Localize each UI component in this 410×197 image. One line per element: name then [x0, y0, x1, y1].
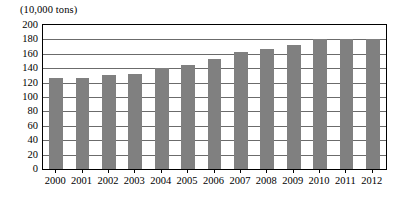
x-axis-tick [55, 170, 56, 173]
y-axis-tick-label: 60 [28, 119, 39, 130]
x-axis-tick-label: 2012 [361, 175, 382, 187]
y-axis-tick-label: 160 [22, 47, 38, 58]
x-axis-tick [240, 170, 241, 173]
bar-2012 [366, 39, 380, 169]
bar-chart-figure: (10,000 tons) 02040608010012014016018020… [0, 0, 410, 197]
y-axis-tick-label: 40 [28, 134, 39, 145]
x-axis-tick [108, 170, 109, 173]
x-axis-tick-label: 2008 [256, 175, 277, 187]
y-axis-tick-label: 120 [22, 76, 38, 87]
y-axis-tick-label: 80 [28, 105, 39, 116]
x-axis-tick-label: 2001 [71, 175, 92, 187]
bars-layer [43, 25, 386, 169]
bar-2005 [181, 65, 195, 169]
bar-2004 [155, 68, 169, 169]
y-axis-tick-label: 100 [22, 91, 38, 102]
y-axis-tick-label: 0 [33, 163, 38, 174]
x-axis-tick-label: 2002 [97, 175, 118, 187]
x-axis-tick [345, 170, 346, 173]
x-axis-tick [319, 170, 320, 173]
plot-area [42, 24, 387, 170]
bar-2006 [208, 59, 222, 169]
y-axis-tick-label: 20 [28, 148, 39, 159]
x-axis-tick-label: 2004 [150, 175, 171, 187]
bar-2003 [128, 74, 142, 169]
x-axis-tick-label: 2010 [309, 175, 330, 187]
bar-2000 [49, 78, 63, 169]
x-axis-tick-label: 2006 [203, 175, 224, 187]
x-axis-tick [293, 170, 294, 173]
bar-2009 [287, 45, 301, 169]
x-axis-tick-label: 2000 [45, 175, 66, 187]
x-axis: 2000200120022003200420052006200720082009… [42, 170, 387, 194]
bar-2010 [313, 39, 327, 169]
bar-2002 [102, 75, 116, 169]
x-axis-tick [134, 170, 135, 173]
bar-2001 [76, 78, 90, 169]
x-axis-tick-label: 2011 [335, 175, 356, 187]
x-axis-tick [214, 170, 215, 173]
x-axis-tick [82, 170, 83, 173]
y-axis-tick-label: 140 [22, 62, 38, 73]
bar-2008 [260, 49, 274, 169]
x-axis-tick-label: 2009 [282, 175, 303, 187]
x-axis-tick-label: 2003 [124, 175, 145, 187]
x-axis-tick [266, 170, 267, 173]
y-axis: 020406080100120140160180200 [0, 18, 42, 176]
x-axis-tick-label: 2005 [177, 175, 198, 187]
y-axis-tick-label: 200 [22, 19, 38, 30]
bar-2011 [340, 39, 354, 169]
y-axis-tick-label: 180 [22, 33, 38, 44]
chart-unit-caption: (10,000 tons) [20, 4, 77, 16]
x-axis-tick [161, 170, 162, 173]
bar-2007 [234, 52, 248, 169]
x-axis-tick-label: 2007 [229, 175, 250, 187]
x-axis-tick [187, 170, 188, 173]
x-axis-tick [372, 170, 373, 173]
